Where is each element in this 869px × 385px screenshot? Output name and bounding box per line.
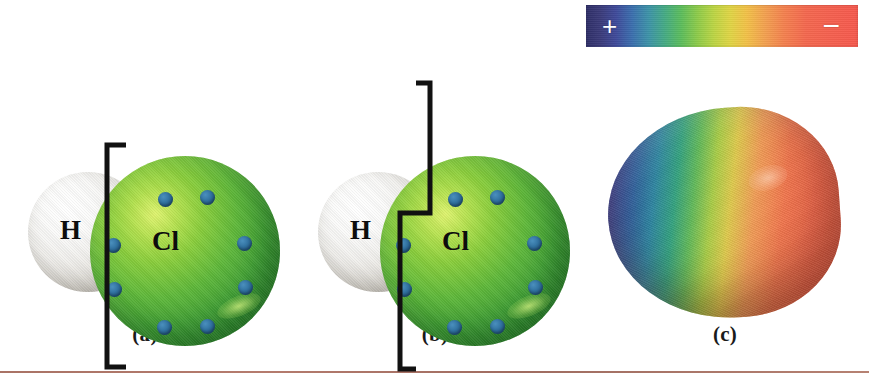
electron-dot <box>396 238 411 253</box>
electrostatic-potential-surface <box>601 100 847 326</box>
electrostatic-potential-scale-bar: + − <box>586 5 858 47</box>
scale-positive-label: + <box>602 13 617 39</box>
electron-dot <box>527 236 542 251</box>
electron-dot <box>106 238 121 253</box>
electron-dot <box>447 320 462 335</box>
electron-dot <box>528 280 543 295</box>
electron-dot <box>200 190 215 205</box>
hydrogen-label-a: H <box>60 215 81 246</box>
sphere-gloss <box>214 288 264 324</box>
electron-dot <box>157 320 172 335</box>
electron-dot <box>200 319 215 334</box>
panel-b: H Cl (b) <box>290 60 580 380</box>
electron-dot <box>448 192 463 207</box>
bottom-divider-rule <box>0 371 869 373</box>
electron-dot <box>490 319 505 334</box>
chlorine-sphere-b <box>380 156 570 346</box>
hydrogen-label-b: H <box>350 215 371 246</box>
electron-dot <box>237 236 252 251</box>
panel-c: (c) <box>580 60 869 380</box>
chlorine-label-a: Cl <box>152 226 179 257</box>
chlorine-label-b: Cl <box>442 226 469 257</box>
panel-a: H Cl (a) <box>0 60 290 380</box>
scale-negative-label: − <box>822 11 840 41</box>
hcl-bonding-figure: + − H Cl (a) <box>0 0 869 385</box>
panel-c-caption: (c) <box>580 322 869 347</box>
scale-bar-texture <box>586 5 858 47</box>
electron-dot <box>107 282 122 297</box>
sphere-gloss <box>504 288 554 324</box>
esp-surface-wrapper <box>608 108 840 318</box>
electron-dot <box>490 190 505 205</box>
chlorine-sphere-a <box>90 156 280 346</box>
electron-dot <box>238 280 253 295</box>
electron-dot <box>158 192 173 207</box>
electron-dot <box>397 282 412 297</box>
